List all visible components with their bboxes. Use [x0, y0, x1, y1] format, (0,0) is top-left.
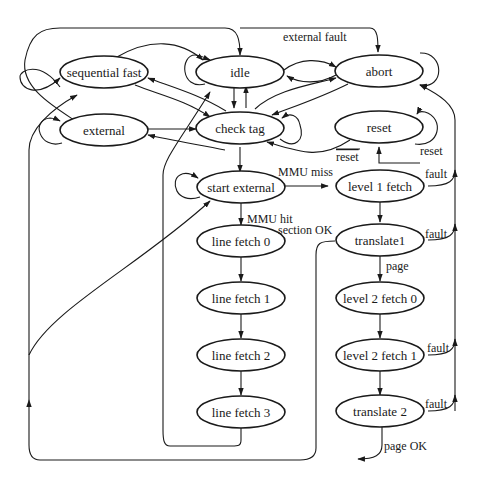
- node-label: line fetch 0: [212, 234, 270, 249]
- node-external[interactable]: external: [60, 114, 148, 146]
- label-fault-level-2-fetch-1: fault: [427, 341, 450, 355]
- node-line-fetch-2[interactable]: line fetch 2: [197, 339, 285, 371]
- node-translate-2[interactable]: translate 2: [336, 395, 424, 427]
- node-sequential-fast[interactable]: sequential fast: [60, 56, 148, 88]
- label-fault-translate1: fault: [425, 227, 448, 241]
- edge-translate1-section-ok: [29, 241, 335, 460]
- node-level-1-fetch[interactable]: level 1 fetch: [336, 170, 424, 202]
- node-label: sequential fast: [67, 65, 142, 80]
- node-label: line fetch 1: [212, 291, 270, 306]
- node-line-fetch-0[interactable]: line fetch 0: [197, 225, 285, 257]
- node-label: level 2 fetch 0: [343, 291, 417, 306]
- label-mmu-miss: MMU miss: [278, 165, 333, 179]
- node-line-fetch-3[interactable]: line fetch 3: [197, 396, 285, 428]
- edge-abort-to-idle: [287, 75, 336, 82]
- node-label: translate1: [355, 233, 406, 248]
- node-level-2-fetch-0[interactable]: level 2 fetch 0: [336, 282, 424, 314]
- edge-fault-bus-to-abort: [420, 85, 455, 411]
- edge-translate-2-page-ok: [358, 427, 382, 459]
- node-abort[interactable]: abort: [335, 55, 423, 87]
- label-fault-level-1: fault: [425, 167, 448, 181]
- node-label: level 2 fetch 1: [343, 348, 417, 363]
- label-page-ok: page OK: [384, 439, 427, 453]
- node-label: reset: [367, 120, 392, 135]
- selfloop-external: [39, 118, 62, 144]
- edge-sequential-fast-to-idle: [117, 44, 203, 60]
- label-reset-bar: reset: [336, 150, 359, 164]
- state-diagram: sequential fast idle abort external chec…: [0, 0, 483, 487]
- node-translate1[interactable]: translate1: [336, 224, 424, 256]
- node-reset[interactable]: reset: [335, 111, 423, 143]
- edge-abort-to-check-tag: [272, 84, 348, 115]
- nodes: sequential fast idle abort external chec…: [60, 55, 424, 428]
- node-label: level 1 fetch: [348, 179, 413, 194]
- edge-sequential-fast-to-check-tag: [135, 85, 210, 117]
- node-label: idle: [230, 65, 250, 80]
- label-page: page: [386, 259, 409, 273]
- node-level-2-fetch-1[interactable]: level 2 fetch 1: [336, 339, 424, 371]
- node-line-fetch-1[interactable]: line fetch 1: [197, 282, 285, 314]
- label-reset: reset: [420, 144, 443, 158]
- node-label: abort: [366, 64, 393, 79]
- label-fault-translate-2: fault: [425, 397, 448, 411]
- node-start-external[interactable]: start external: [197, 171, 285, 203]
- label-external-fault: external fault: [283, 30, 347, 44]
- node-label: line fetch 3: [212, 405, 270, 420]
- node-label: external: [83, 123, 125, 138]
- node-label: line fetch 2: [212, 348, 270, 363]
- node-check-tag[interactable]: check tag: [196, 112, 284, 144]
- node-idle[interactable]: idle: [196, 56, 284, 88]
- node-label: check tag: [215, 121, 265, 136]
- label-section-ok: section OK: [278, 223, 333, 237]
- edge-return-to-start-external: [29, 201, 210, 400]
- edge-idle-to-abort: [284, 61, 336, 70]
- node-label: translate 2: [353, 404, 407, 419]
- edge-reset-input: [379, 147, 420, 163]
- node-label: start external: [207, 180, 275, 195]
